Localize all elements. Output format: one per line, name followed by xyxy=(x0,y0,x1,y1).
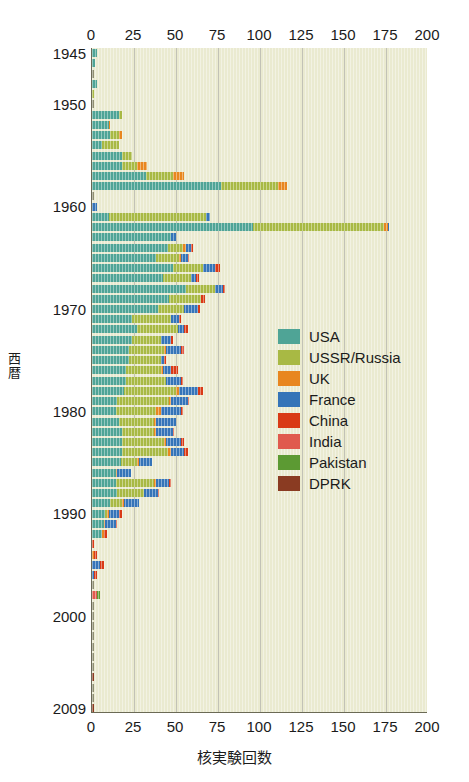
x-tick-label: 125 xyxy=(279,718,323,735)
bar-segment-ussr xyxy=(110,499,122,507)
bar-row xyxy=(92,551,97,559)
bar-segment-usa xyxy=(92,254,156,262)
bar-segment-ussr xyxy=(163,274,192,282)
x-tick-label: 0 xyxy=(69,718,113,735)
bar-segment-ussr xyxy=(116,407,156,415)
x-axis-title: 核実験回数 xyxy=(0,746,469,767)
bar-segment-usa xyxy=(92,213,109,221)
bar-row xyxy=(92,530,107,538)
bar-segment-usa xyxy=(92,366,126,374)
bar-segment-zero xyxy=(92,622,94,630)
bar-row xyxy=(92,254,189,262)
bar-segment-zero xyxy=(92,612,94,620)
bar-segment-usa xyxy=(92,356,129,364)
bar-segment-usa xyxy=(92,489,117,497)
bar-segment-ussr xyxy=(146,172,173,180)
bar-row xyxy=(92,233,176,241)
bar-row xyxy=(92,192,94,200)
bar-segment-china xyxy=(94,571,97,579)
bar-segment-france xyxy=(163,366,171,374)
bar-row xyxy=(92,510,122,518)
bar-segment-dprk xyxy=(92,704,94,712)
bar-segment-china xyxy=(100,561,103,569)
legend-label: USSR/Russia xyxy=(309,350,401,365)
bar-row xyxy=(92,244,193,252)
bar-segment-ussr xyxy=(168,244,183,252)
bar-segment-uk xyxy=(109,121,111,129)
bar-row xyxy=(92,213,210,221)
bar-segment-uk xyxy=(278,182,286,190)
bar-segment-ussr xyxy=(129,346,164,354)
bar-segment-usa xyxy=(92,458,121,466)
bar-segment-usa xyxy=(92,111,119,119)
bar-segment-usa xyxy=(92,131,110,139)
bar-row xyxy=(92,704,94,712)
bar-row xyxy=(92,305,200,313)
bar-segment-ussr xyxy=(121,458,138,466)
bar-row xyxy=(92,673,94,681)
x-tick-label: 150 xyxy=(321,718,365,735)
bar-segment-usa xyxy=(92,49,97,57)
bar-row xyxy=(92,152,132,160)
bar-row xyxy=(92,49,97,57)
bar-segment-usa xyxy=(92,438,122,446)
bar-segment-usa xyxy=(92,80,97,88)
bar-segment-china xyxy=(119,510,122,518)
legend-swatch xyxy=(278,476,300,491)
bar-segment-usa xyxy=(92,418,119,426)
legend-swatch xyxy=(278,413,300,428)
bar-segment-ussr xyxy=(173,264,203,272)
bar-row xyxy=(92,397,189,405)
bar-segment-zero xyxy=(92,694,94,702)
legend-swatch xyxy=(278,350,300,365)
bar-segment-france xyxy=(178,325,185,333)
x-tick-label: 50 xyxy=(153,718,197,735)
bar-segment-china xyxy=(171,366,178,374)
bar-row xyxy=(92,80,97,88)
bar-row xyxy=(92,336,173,344)
bar-segment-usa xyxy=(92,274,163,282)
bar-row xyxy=(92,131,122,139)
bar-segment-france xyxy=(388,223,390,231)
x-tick-label: 125 xyxy=(279,26,323,43)
bar-segment-usa xyxy=(92,346,129,354)
bar-segment-usa xyxy=(92,428,122,436)
bar-segment-france xyxy=(171,233,176,241)
bar-segment-usa xyxy=(92,530,102,538)
bar-segment-ussr xyxy=(158,305,185,313)
bar-row xyxy=(92,643,94,651)
bar-segment-ussr xyxy=(110,131,118,139)
legend-swatch xyxy=(278,434,300,449)
bar-row xyxy=(92,540,94,548)
bar-row xyxy=(92,622,94,630)
bar-segment-ussr xyxy=(186,285,215,293)
bar-segment-usa xyxy=(92,141,102,149)
bar-segment-usa xyxy=(92,162,122,170)
bar-segment-zero xyxy=(92,663,94,671)
bar-segment-france xyxy=(161,407,181,415)
bar-row xyxy=(92,653,94,661)
y-tick-label: 1960 xyxy=(30,198,86,215)
bar-segment-usa xyxy=(92,315,132,323)
x-tick-label: 100 xyxy=(237,26,281,43)
legend-item-usa: USA xyxy=(278,326,401,347)
bar-segment-usa xyxy=(92,407,116,415)
bar-row xyxy=(92,315,181,323)
legend-swatch xyxy=(278,329,300,344)
x-tick-label: 100 xyxy=(237,718,281,735)
bar-row xyxy=(92,499,139,507)
bar-segment-ussr xyxy=(129,356,161,364)
bar-segment-zero xyxy=(92,70,94,78)
legend-item-france: France xyxy=(278,389,401,410)
bar-segment-usa xyxy=(92,510,105,518)
bar-segment-china xyxy=(215,264,220,272)
x-tick-label: 200 xyxy=(405,718,449,735)
bar-row xyxy=(92,458,152,466)
bar-segment-ussr xyxy=(109,213,206,221)
legend-label: India xyxy=(309,434,342,449)
bar-row xyxy=(92,438,184,446)
bar-segment-france xyxy=(92,561,100,569)
bar-segment-china xyxy=(116,520,118,528)
x-tick-label: 75 xyxy=(195,718,239,735)
bar-segment-france xyxy=(105,520,115,528)
